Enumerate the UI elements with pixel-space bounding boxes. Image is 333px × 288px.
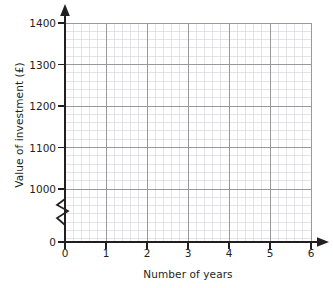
x-tick-4: 4 — [217, 248, 241, 259]
y-axis-title: Value of investment (£) — [13, 20, 25, 230]
x-tick-1: 1 — [94, 248, 118, 259]
x-tick-2: 2 — [135, 248, 159, 259]
x-tick-5: 5 — [258, 248, 282, 259]
y-axis-tick-labels: 1400 1300 1200 1100 1000 0 — [0, 0, 56, 288]
investment-graph: 1400 1300 1200 1100 1000 0 0 1 2 3 4 5 6… — [0, 0, 333, 288]
arrow-right-icon — [317, 237, 329, 247]
y-tick-0: 0 — [16, 237, 56, 248]
arrow-up-icon — [60, 4, 70, 16]
x-axis-title: Number of years — [65, 268, 311, 280]
x-tick-6: 6 — [299, 248, 323, 259]
x-tick-3: 3 — [176, 248, 200, 259]
x-tick-0: 0 — [53, 248, 77, 259]
axis-break-zigzag-icon — [57, 199, 68, 225]
major-gridlines-vertical — [106, 23, 311, 242]
